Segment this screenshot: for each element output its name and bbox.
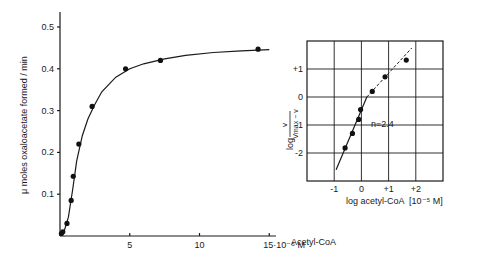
inset-frame — [307, 41, 443, 181]
data-point — [71, 174, 76, 179]
inset-data-point — [356, 117, 361, 122]
data-point — [255, 47, 260, 52]
y-tick-label: 0.5 — [41, 22, 54, 32]
inset-y-tick-label: 0 — [298, 92, 303, 102]
inset-hill-plot: +10-1-2 -10+1+2 n=2.4 log acetyl-CoA [10… — [280, 41, 443, 206]
data-point — [60, 229, 65, 234]
main-y-ticks: 0.10.20.30.40.5 — [41, 22, 60, 199]
inset-data-point — [370, 89, 375, 94]
inset-y-tick-label: -2 — [295, 148, 303, 158]
main-data-points — [59, 47, 261, 237]
figure: 0.10.20.30.40.5 51015·10⁻⁵ M Acetyl-CoA … — [0, 0, 479, 263]
inset-x-ticks: -10+1+2 — [330, 184, 421, 194]
inset-x-tick-label: +2 — [411, 184, 421, 194]
data-point — [64, 221, 69, 226]
inset-x-tick-label: -1 — [330, 184, 338, 194]
data-point — [69, 198, 74, 203]
inset-y-label-denominator: Vmax − v — [292, 109, 299, 139]
inset-data-point — [382, 74, 387, 79]
main-y-axis-label: μ moles oxaloacetate formed / min — [19, 56, 29, 194]
hill-coefficient-annotation: n=2.4 — [371, 119, 394, 129]
main-fit-curve — [60, 50, 269, 236]
x-tick-label: 5 — [127, 240, 132, 250]
inset-x-axis-label: log acetyl-CoA [10⁻⁵ M] — [346, 196, 443, 206]
y-tick-label: 0.3 — [41, 106, 54, 116]
data-point — [158, 58, 163, 63]
inset-data-point — [342, 145, 347, 150]
data-point — [76, 141, 81, 146]
data-point — [89, 104, 94, 109]
inset-y-axis-label: log v Vmax − v — [280, 109, 299, 150]
data-point — [123, 66, 128, 71]
inset-data-points — [342, 57, 408, 150]
inset-data-point — [404, 57, 409, 62]
y-tick-label: 0.2 — [41, 147, 54, 157]
y-tick-label: 0.1 — [41, 189, 54, 199]
inset-x-tick-label: +1 — [383, 184, 393, 194]
inset-grid — [307, 41, 443, 181]
inset-x-tick-label: 0 — [359, 184, 364, 194]
inset-fit-lines — [336, 48, 412, 170]
x-tick-label: 10 — [194, 240, 204, 250]
main-x-axis-label: Acetyl-CoA — [291, 237, 336, 247]
inset-y-label-numerator: v — [280, 123, 289, 127]
y-tick-label: 0.4 — [41, 64, 54, 74]
inset-y-label-prefix: log — [285, 138, 295, 150]
inset-y-tick-label: +1 — [293, 64, 303, 74]
inset-data-point — [358, 107, 363, 112]
inset-data-point — [350, 131, 355, 136]
main-plot: 0.10.20.30.40.5 51015·10⁻⁵ M Acetyl-CoA … — [19, 12, 336, 250]
